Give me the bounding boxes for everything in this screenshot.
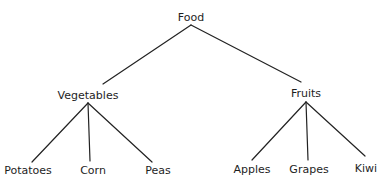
edge-food-fruits xyxy=(191,25,301,82)
edge-fruits-apples xyxy=(252,102,306,160)
edge-vegetables-potatoes xyxy=(32,103,88,162)
edge-fruits-grapes xyxy=(306,102,308,160)
node-corn: Corn xyxy=(80,165,106,176)
node-peas: Peas xyxy=(145,165,170,176)
node-fruits: Fruits xyxy=(291,88,321,99)
edge-food-vegetables xyxy=(103,25,191,84)
edge-vegetables-corn xyxy=(88,103,90,161)
node-grapes: Grapes xyxy=(289,164,328,175)
edge-fruits-kiwi xyxy=(306,102,365,156)
edge-vegetables-peas xyxy=(88,103,152,162)
node-root: Food xyxy=(178,12,204,23)
node-vegetables: Vegetables xyxy=(58,90,119,101)
tree-diagram: Food Vegetables Fruits Potatoes Corn Pea… xyxy=(0,0,388,184)
node-kiwi: Kiwi xyxy=(355,163,377,174)
node-apples: Apples xyxy=(233,164,270,175)
node-potatoes: Potatoes xyxy=(4,165,52,176)
